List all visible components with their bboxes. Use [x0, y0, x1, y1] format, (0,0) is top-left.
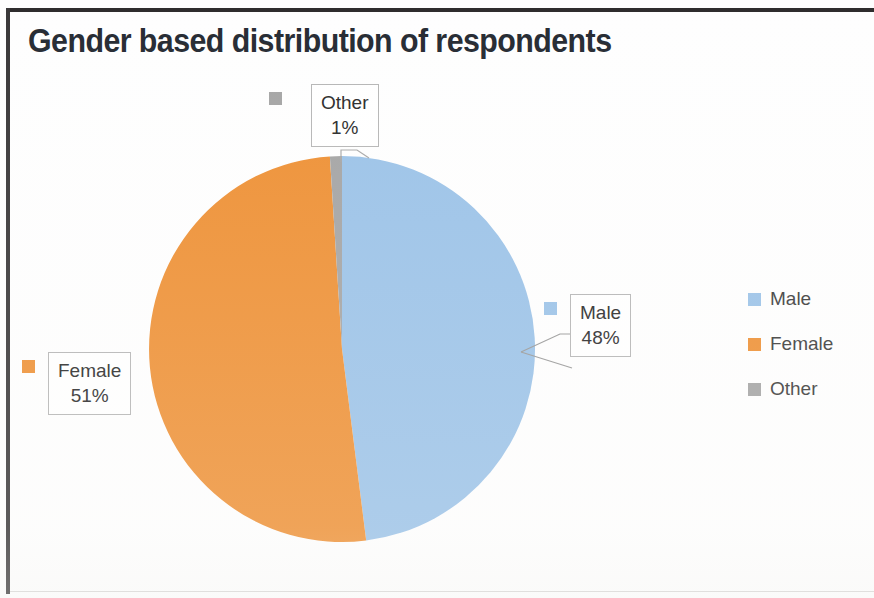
legend-label-female: Female [770, 333, 833, 355]
page-border-left [6, 8, 10, 594]
legend-swatch-female [748, 338, 761, 351]
chart-legend: Male Female Other [748, 288, 833, 423]
data-label-female[interactable]: Female 51% [48, 352, 131, 415]
data-label-swatch-male [544, 302, 557, 315]
data-label-swatch-other [269, 92, 282, 105]
page-border-bottom [10, 591, 874, 592]
data-label-other-name: Other [321, 90, 369, 115]
pie-slice-male[interactable] [342, 156, 535, 540]
pie-chart-svg [148, 155, 536, 543]
legend-label-other: Other [770, 378, 818, 400]
chart-title: Gender based distribution of respondents [28, 22, 611, 60]
data-label-male[interactable]: Male 48% [570, 294, 631, 357]
data-label-female-percent: 51% [58, 383, 121, 408]
data-label-swatch-female [22, 360, 35, 373]
legend-swatch-other [748, 383, 761, 396]
data-label-male-name: Male [580, 300, 621, 325]
data-label-male-percent: 48% [580, 325, 621, 350]
pie-chart [148, 155, 536, 543]
data-label-female-name: Female [58, 358, 121, 383]
legend-label-male: Male [770, 288, 811, 310]
data-label-other-percent: 1% [321, 115, 369, 140]
legend-item-other[interactable]: Other [748, 378, 833, 400]
legend-swatch-male [748, 293, 761, 306]
data-label-other[interactable]: Other 1% [311, 84, 379, 147]
page-border-top [6, 8, 874, 12]
legend-item-male[interactable]: Male [748, 288, 833, 310]
scanned-page: Gender based distribution of respondents… [0, 0, 874, 598]
legend-item-female[interactable]: Female [748, 333, 833, 355]
